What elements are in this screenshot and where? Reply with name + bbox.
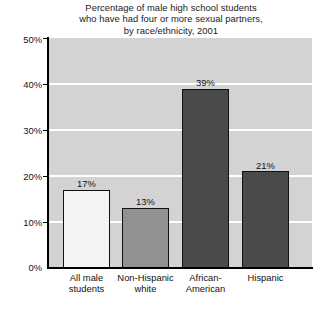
plot-area bbox=[48, 38, 312, 268]
x-axis-label-line: American bbox=[186, 283, 226, 294]
y-axis-label-30: 30% bbox=[23, 125, 42, 136]
y-axis-label-40: 40% bbox=[23, 79, 42, 90]
bar-african-american bbox=[182, 89, 229, 268]
x-axis-line bbox=[47, 267, 313, 269]
x-axis-label-line: Hispanic bbox=[248, 272, 284, 283]
x-axis-label-non-hispanic-white: Non-Hispanic white bbox=[117, 272, 173, 294]
bar-chart: Percentage of male high school students … bbox=[0, 0, 324, 311]
y-axis-label-0: 0% bbox=[28, 262, 42, 273]
chart-title-line-2: who have had four or more sexual partner… bbox=[40, 13, 302, 24]
gridline-40 bbox=[48, 83, 312, 85]
bar-value-all-male-students: 17% bbox=[77, 178, 96, 189]
x-axis-label-line: Non-Hispanic bbox=[117, 272, 173, 283]
bar-hispanic bbox=[242, 171, 289, 268]
y-tick-20 bbox=[43, 176, 48, 177]
bar-all-male-students bbox=[63, 190, 110, 268]
chart-title-line-1: Percentage of male high school students bbox=[40, 2, 302, 13]
bar-value-african-american: 39% bbox=[196, 77, 215, 88]
y-tick-30 bbox=[43, 130, 48, 131]
bar-non-hispanic-white bbox=[122, 208, 169, 268]
bar-value-non-hispanic-white: 13% bbox=[136, 196, 155, 207]
y-tick-10 bbox=[43, 222, 48, 223]
x-axis-label-line: All male bbox=[69, 272, 104, 283]
bar-value-hispanic: 21% bbox=[256, 160, 275, 171]
y-axis-label-50: 50% bbox=[23, 34, 42, 45]
y-axis-line bbox=[47, 37, 49, 269]
gridline-30 bbox=[48, 129, 312, 131]
x-axis-label-line: students bbox=[69, 283, 104, 294]
x-axis-label-all-male-students: All male students bbox=[69, 272, 104, 294]
chart-title: Percentage of male high school students … bbox=[40, 2, 302, 36]
x-axis-label-line: African- bbox=[186, 272, 226, 283]
x-axis-label-hispanic: Hispanic bbox=[248, 272, 284, 283]
chart-title-line-3: by race/ethnicity, 2001 bbox=[40, 25, 302, 36]
y-axis-label-20: 20% bbox=[23, 171, 42, 182]
y-tick-50 bbox=[43, 38, 48, 39]
y-tick-40 bbox=[43, 84, 48, 85]
y-axis-label-10: 10% bbox=[23, 217, 42, 228]
x-axis-label-line: white bbox=[117, 283, 173, 294]
x-axis-label-african-american: African- American bbox=[186, 272, 226, 294]
